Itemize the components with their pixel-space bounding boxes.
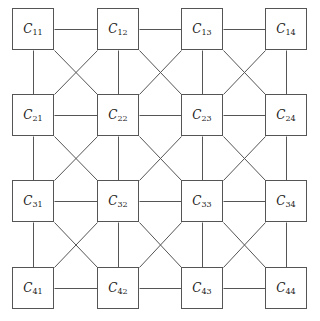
- cell-symbol: C: [276, 194, 285, 208]
- cell-label: C11: [23, 22, 42, 37]
- cell-symbol: C: [276, 281, 285, 295]
- cell-node-c12: C12: [97, 8, 139, 50]
- cell-index: 14: [286, 28, 296, 37]
- cell-index: 44: [286, 287, 296, 296]
- cell-symbol: C: [23, 22, 32, 36]
- cell-symbol: C: [276, 22, 285, 36]
- cell-node-c44: C44: [265, 267, 307, 309]
- cell-symbol: C: [192, 194, 201, 208]
- cell-label: C34: [276, 194, 295, 209]
- cell-index: 32: [118, 200, 128, 209]
- cell-node-c13: C13: [181, 8, 223, 50]
- cell-label: C24: [276, 108, 295, 123]
- cell-node-c41: C41: [12, 267, 54, 309]
- cell-label: C21: [23, 108, 42, 123]
- cell-symbol: C: [108, 22, 117, 36]
- cell-symbol: C: [23, 281, 32, 295]
- cell-node-c43: C43: [181, 267, 223, 309]
- cell-label: C31: [23, 194, 42, 209]
- cell-node-c42: C42: [97, 267, 139, 309]
- cell-symbol: C: [192, 22, 201, 36]
- cell-index: 22: [118, 114, 128, 123]
- cell-symbol: C: [192, 281, 201, 295]
- cell-index: 42: [118, 287, 128, 296]
- cell-node-c24: C24: [265, 94, 307, 136]
- cell-index: 12: [118, 28, 128, 37]
- cell-index: 34: [286, 200, 296, 209]
- cell-label: C12: [108, 22, 127, 37]
- cell-label: C41: [23, 281, 42, 296]
- cell-symbol: C: [23, 108, 32, 122]
- cell-index: 13: [202, 28, 212, 37]
- cellular-neural-network-diagram: C11C12C13C14C21C22C23C24C31C32C33C34C41C…: [0, 0, 320, 321]
- cell-label: C32: [108, 194, 127, 209]
- cell-node-c32: C32: [97, 180, 139, 222]
- cell-index: 21: [33, 114, 43, 123]
- cell-symbol: C: [108, 281, 117, 295]
- cell-label: C42: [108, 281, 127, 296]
- cell-symbol: C: [192, 108, 201, 122]
- cell-node-c34: C34: [265, 180, 307, 222]
- cell-index: 43: [202, 287, 212, 296]
- cell-label: C22: [108, 108, 127, 123]
- cell-node-c11: C11: [12, 8, 54, 50]
- cell-label: C23: [192, 108, 211, 123]
- cell-symbol: C: [108, 194, 117, 208]
- cell-symbol: C: [108, 108, 117, 122]
- cell-symbol: C: [276, 108, 285, 122]
- cell-index: 31: [33, 200, 43, 209]
- cell-node-c22: C22: [97, 94, 139, 136]
- cell-label: C13: [192, 22, 211, 37]
- cell-node-c14: C14: [265, 8, 307, 50]
- cell-index: 11: [33, 28, 43, 37]
- cell-node-c33: C33: [181, 180, 223, 222]
- cell-index: 33: [202, 200, 212, 209]
- cell-label: C33: [192, 194, 211, 209]
- cell-symbol: C: [23, 194, 32, 208]
- cell-index: 41: [33, 287, 43, 296]
- cell-label: C43: [192, 281, 211, 296]
- cell-index: 24: [286, 114, 296, 123]
- cell-node-c23: C23: [181, 94, 223, 136]
- cell-label: C14: [276, 22, 295, 37]
- cell-node-c31: C31: [12, 180, 54, 222]
- cell-index: 23: [202, 114, 212, 123]
- cell-node-c21: C21: [12, 94, 54, 136]
- cell-label: C44: [276, 281, 295, 296]
